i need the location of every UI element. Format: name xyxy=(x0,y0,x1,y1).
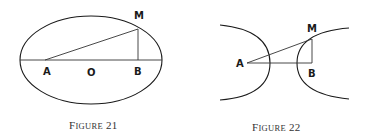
point-label-b: B xyxy=(134,66,142,77)
segment-am xyxy=(45,29,138,60)
segment-am xyxy=(247,39,312,63)
diagram-canvas: M A O B FIGURE21 M A B FIGURE22 xyxy=(0,0,366,139)
figure-caption: FIGURE21 xyxy=(69,119,118,131)
point-label-o: O xyxy=(87,67,96,78)
point-label-m: M xyxy=(134,10,144,21)
point-label-b: B xyxy=(308,68,316,79)
figure-21: M A O B FIGURE21 xyxy=(20,10,162,131)
point-label-a: A xyxy=(43,66,51,77)
hyperbola-left-branch xyxy=(220,25,270,100)
point-label-a: A xyxy=(236,58,244,69)
figure-22: M A B FIGURE22 xyxy=(220,23,349,133)
point-label-m: M xyxy=(307,23,317,34)
hyperbola-right-branch xyxy=(297,28,349,99)
figure-caption: FIGURE22 xyxy=(252,121,301,133)
